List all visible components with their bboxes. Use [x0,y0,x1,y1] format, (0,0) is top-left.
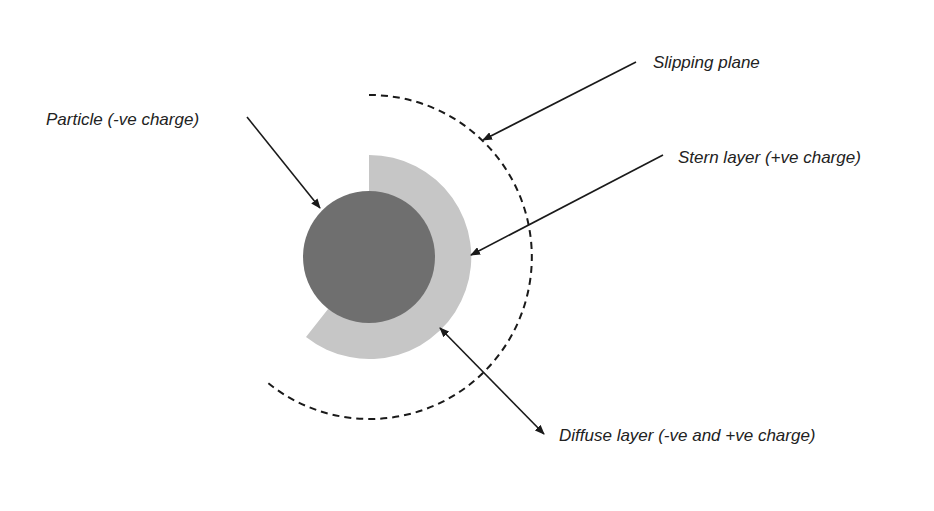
slipping-plane-label: Slipping plane [653,53,760,72]
diffuse-layer-arrow [440,328,544,434]
stern-layer-label: Stern layer (+ve charge) [678,148,861,167]
double-layer-diagram: Particle (-ve charge) Slipping plane Ste… [0,0,934,511]
particle-label: Particle (-ve charge) [46,110,199,129]
stern-layer-arrow [471,155,663,255]
particle-shape [303,191,435,323]
diffuse-layer-label: Diffuse layer (-ve and +ve charge) [559,426,816,445]
particle-arrow [247,117,320,208]
slipping-plane-arrow [483,62,636,140]
